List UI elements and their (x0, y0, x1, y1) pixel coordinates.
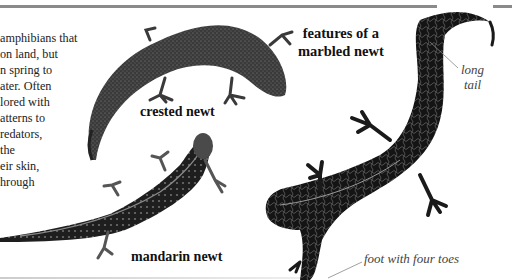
mandarin-newt-image (0, 133, 225, 258)
foot-leader-line (328, 262, 362, 278)
heading-line-1: features of a (298, 24, 384, 42)
newt-illustrations (0, 0, 512, 280)
foot-annotation: foot with four toes (364, 251, 459, 267)
crested-newt-image (89, 25, 292, 160)
long-tail-annotation: long tail (461, 62, 484, 92)
marbled-newt-heading: features of a marbled newt (298, 24, 384, 60)
crested-newt-label: crested newt (140, 104, 215, 120)
annotation-line: long (461, 62, 484, 77)
mandarin-newt-label: mandarin newt (131, 249, 222, 265)
heading-line-2: marbled newt (298, 42, 384, 60)
annotation-line: tail (461, 77, 484, 92)
